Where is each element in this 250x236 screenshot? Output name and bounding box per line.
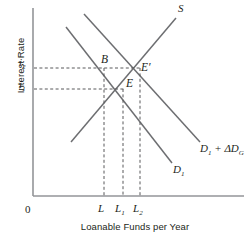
y-tick-i1-sub: 1 <box>22 85 26 93</box>
y-tick-i2-sub: 2 <box>22 63 26 71</box>
x-tick-label-L1: L1 <box>115 203 125 217</box>
point-label-b: B <box>101 54 108 66</box>
chart-canvas <box>0 0 250 236</box>
demand-curve-shifted <box>84 14 200 142</box>
demand-shifted-base: D <box>200 142 208 154</box>
y-tick-label-i2: i2 <box>19 57 26 71</box>
demand-initial-sub: 1 <box>181 170 185 178</box>
demand-curve-initial <box>66 27 172 163</box>
demand-curve-shifted-label: D1 + ΔDG <box>200 143 244 157</box>
demand-initial-base: D <box>173 163 181 175</box>
loanable-funds-market-diagram: Interest Rate Loanable Funds per Year 0 … <box>0 0 250 236</box>
x-tick-label-L2: L2 <box>133 203 143 217</box>
x-axis-title: Loanable Funds per Year <box>30 221 240 232</box>
point-label-e-prime: E′ <box>141 62 151 74</box>
x-tick-L1-sub: 1 <box>121 209 125 217</box>
x-tick-L-base: L <box>98 202 104 214</box>
demand-shifted-delta: + ΔD <box>211 142 238 154</box>
demand-curve-initial-label: D1 <box>173 164 184 178</box>
y-tick-label-i1: i1 <box>19 79 26 93</box>
supply-curve-label: S <box>178 3 184 14</box>
origin-label: 0 <box>25 203 31 215</box>
x-tick-L2-sub: 2 <box>139 209 143 217</box>
demand-shifted-delta-sub: G <box>239 149 244 157</box>
x-tick-label-L: L <box>98 203 104 214</box>
point-label-e: E <box>126 78 133 90</box>
